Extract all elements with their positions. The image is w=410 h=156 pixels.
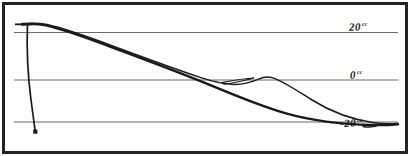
axis-label-20cc: 20cc: [349, 21, 368, 33]
calibration-endpoint-marker: [33, 130, 37, 134]
axis-label-0cc-value: 0: [350, 69, 356, 81]
axis-label-neg20cc: -20cc: [340, 117, 363, 129]
axis-label-20cc-value: 20: [349, 21, 361, 33]
chart-figure: 20cc 0cc -20cc: [0, 0, 410, 156]
axis-label-0cc-unit: cc: [357, 69, 362, 75]
axis-label-0cc: 0cc: [350, 69, 363, 81]
axis-label-20cc-unit: cc: [362, 21, 367, 27]
axis-label-neg20cc-unit: cc: [357, 117, 363, 123]
axis-label-neg20cc-value: -20: [340, 116, 357, 129]
